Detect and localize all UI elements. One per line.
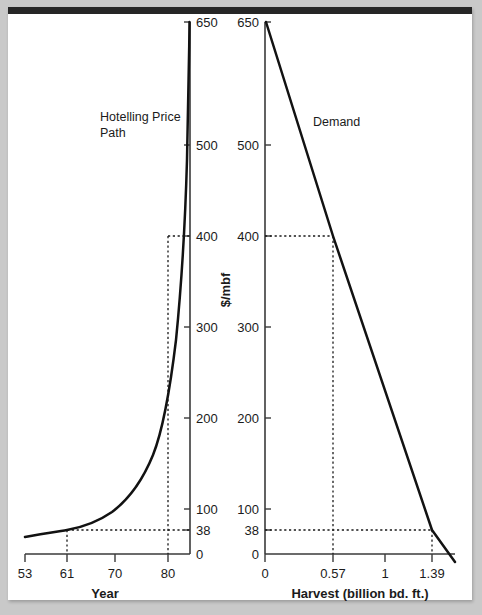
right-ytick-label-38: 38 xyxy=(245,523,259,538)
left-x-axis-title: Year xyxy=(91,586,118,601)
left-ytick-label-400: 400 xyxy=(196,229,218,244)
left-ytick-label-100: 100 xyxy=(196,502,218,517)
right-xtick-label-139: 1.39 xyxy=(419,566,444,581)
right-ytick-label-300: 300 xyxy=(237,320,259,335)
figure-root: 650 500 400 300 200 100 38 0 53 61 70 80 xyxy=(0,0,482,615)
demand-curve xyxy=(266,22,455,562)
left-ytick-label-200: 200 xyxy=(196,411,218,426)
y-axis-title: $/mbf xyxy=(218,272,233,307)
hotelling-annotation-line1: Hotelling Price xyxy=(100,110,181,124)
left-xtick-label-61: 61 xyxy=(60,566,74,581)
right-ytick-label-500: 500 xyxy=(237,138,259,153)
right-ytick-label-200: 200 xyxy=(237,411,259,426)
right-xtick-label-1: 1 xyxy=(381,566,388,581)
left-ytick-label-650: 650 xyxy=(196,15,218,30)
left-panel-group: 650 500 400 300 200 100 38 0 53 61 70 80 xyxy=(18,15,233,601)
demand-annotation: Demand xyxy=(313,115,360,129)
right-xtick-label-057: 0.57 xyxy=(320,566,345,581)
right-ytick-label-0: 0 xyxy=(252,547,259,562)
left-ytick-label-0: 0 xyxy=(196,547,203,562)
left-ytick-label-300: 300 xyxy=(196,320,218,335)
left-ytick-label-38: 38 xyxy=(196,523,210,538)
right-ytick-label-650: 650 xyxy=(237,15,259,30)
left-xtick-label-53: 53 xyxy=(18,566,32,581)
left-ytick-label-500: 500 xyxy=(196,138,218,153)
left-xtick-label-80: 80 xyxy=(161,566,175,581)
right-panel-group: 650 500 400 300 200 100 38 0 0 0.57 1 1.… xyxy=(237,15,455,601)
left-xtick-label-70: 70 xyxy=(108,566,122,581)
chart-canvas: 650 500 400 300 200 100 38 0 53 61 70 80 xyxy=(0,0,482,615)
right-ytick-label-100: 100 xyxy=(237,502,259,517)
hotelling-price-path-curve xyxy=(25,22,190,537)
right-xtick-label-0: 0 xyxy=(261,566,268,581)
hotelling-annotation-line2: Path xyxy=(100,126,126,140)
right-ytick-label-400: 400 xyxy=(237,229,259,244)
right-x-axis-title: Harvest (billion bd. ft.) xyxy=(291,586,428,601)
